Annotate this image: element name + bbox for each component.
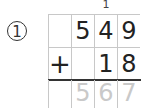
plus-sign: + bbox=[48, 47, 71, 80]
addend1-cell-ones: 9 bbox=[117, 14, 140, 47]
sum-row: 5 6 7 bbox=[48, 80, 141, 108]
addend2-row: + 1 8 bbox=[48, 47, 141, 80]
addend2-cell-hundreds bbox=[71, 47, 94, 80]
addition-grid: 5 4 9 + 1 8 5 6 7 bbox=[48, 14, 141, 108]
carry-digit-tens: 1 bbox=[99, 0, 113, 12]
addend1-row: 5 4 9 bbox=[48, 14, 141, 47]
addend1-cell-sign bbox=[48, 14, 71, 47]
sum-cell-sign[interactable] bbox=[48, 80, 71, 108]
sum-cell-tens[interactable]: 6 bbox=[94, 80, 117, 108]
problem-number-circle: 1 bbox=[7, 21, 27, 41]
addend2-cell-tens: 1 bbox=[94, 47, 117, 80]
sum-cell-ones[interactable]: 7 bbox=[117, 80, 140, 108]
addend1-cell-hundreds: 5 bbox=[71, 14, 94, 47]
sum-cell-hundreds[interactable]: 5 bbox=[71, 80, 94, 108]
addend2-cell-ones: 8 bbox=[117, 47, 140, 80]
addend1-cell-tens: 4 bbox=[94, 14, 117, 47]
